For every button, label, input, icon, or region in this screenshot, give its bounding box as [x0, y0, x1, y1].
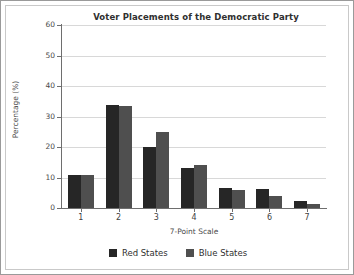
x-tick-mark	[156, 208, 157, 212]
y-tick-label: 20	[27, 142, 55, 151]
chart-figure: Voter Placements of the Democratic Party…	[0, 0, 354, 275]
legend-label: Red States	[122, 248, 168, 258]
x-tick-label: 1	[66, 213, 96, 222]
y-tick-mark	[57, 25, 62, 26]
y-axis-label: Percentage (%)	[11, 50, 20, 170]
x-tick-mark	[194, 208, 195, 212]
y-tick-label: 30	[27, 112, 55, 121]
legend-swatch-icon	[186, 249, 194, 257]
x-tick-label: 7	[292, 213, 322, 222]
legend-item-blue-states[interactable]: Blue States	[186, 248, 247, 258]
x-tick-label: 3	[141, 213, 171, 222]
bar-blue-states-1[interactable]	[81, 175, 94, 208]
bar-blue-states-5[interactable]	[232, 190, 245, 208]
x-tick-label: 6	[254, 213, 284, 222]
bar-red-states-1[interactable]	[68, 175, 81, 208]
bar-blue-states-3[interactable]	[156, 132, 169, 208]
gridline	[62, 147, 326, 148]
plot-area	[62, 25, 326, 208]
y-tick-label: 60	[27, 20, 55, 29]
x-axis-label: 7-Point Scale	[62, 227, 326, 236]
legend-item-red-states[interactable]: Red States	[109, 248, 168, 258]
y-tick-mark	[57, 117, 62, 118]
x-tick-mark	[307, 208, 308, 212]
bar-red-states-6[interactable]	[256, 189, 269, 208]
y-tick-mark	[57, 208, 62, 209]
x-tick-mark	[269, 208, 270, 212]
bar-blue-states-6[interactable]	[269, 196, 282, 208]
legend-swatch-icon	[109, 249, 117, 257]
y-tick-label: 40	[27, 81, 55, 90]
x-tick-label: 4	[179, 213, 209, 222]
bar-blue-states-4[interactable]	[194, 165, 207, 208]
bar-red-states-3[interactable]	[143, 147, 156, 208]
bar-red-states-2[interactable]	[106, 105, 119, 208]
gridline	[62, 25, 326, 26]
y-tick-label: 50	[27, 51, 55, 60]
bar-red-states-7[interactable]	[294, 201, 307, 208]
x-tick-mark	[232, 208, 233, 212]
bar-red-states-5[interactable]	[219, 188, 232, 208]
y-tick-label: 0	[27, 203, 55, 212]
y-tick-mark	[57, 56, 62, 57]
y-tick-mark	[57, 178, 62, 179]
x-tick-label: 2	[104, 213, 134, 222]
y-tick-label: 10	[27, 173, 55, 182]
bar-blue-states-2[interactable]	[119, 106, 132, 208]
x-tick-mark	[119, 208, 120, 212]
gridline	[62, 56, 326, 57]
gridline	[62, 86, 326, 87]
x-tick-label: 5	[217, 213, 247, 222]
bar-red-states-4[interactable]	[181, 168, 194, 208]
gridline	[62, 117, 326, 118]
legend-label: Blue States	[199, 248, 247, 258]
chart-legend: Red States Blue States	[1, 248, 354, 258]
y-tick-mark	[57, 147, 62, 148]
y-tick-mark	[57, 86, 62, 87]
chart-title: Voter Placements of the Democratic Party	[61, 12, 331, 22]
x-tick-mark	[81, 208, 82, 212]
